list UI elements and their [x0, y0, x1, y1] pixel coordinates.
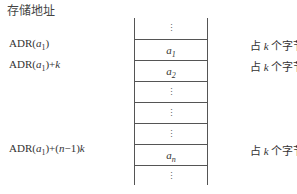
memory-cell-ellipsis: ⋮: [135, 165, 207, 186]
memory-cell-ellipsis: ⋮: [135, 102, 207, 123]
address-a1-plus-k: ADR(a1)+k: [9, 58, 60, 73]
address-a1: ADR(a1): [9, 37, 49, 52]
memory-cell-an: an: [135, 144, 207, 165]
memory-column: ⋮ a1 a2 ⋮ ⋮ ⋮ an ⋮: [134, 18, 208, 185]
memory-cell-ellipsis: ⋮: [135, 81, 207, 102]
size-note-an: 占 k 个字节: [250, 142, 297, 158]
storage-address-header: 存储地址: [7, 1, 55, 19]
address-an: ADR(a1)+(n−1)k: [9, 142, 85, 157]
memory-cell-a2: a2: [135, 60, 207, 81]
memory-cell-ellipsis: ⋮: [135, 18, 207, 39]
size-note-a1: 占 k 个字节: [250, 37, 297, 53]
memory-cell-a1: a1: [135, 39, 207, 60]
memory-cell-ellipsis: ⋮: [135, 123, 207, 144]
size-note-a2: 占 k 个字节: [250, 58, 297, 74]
